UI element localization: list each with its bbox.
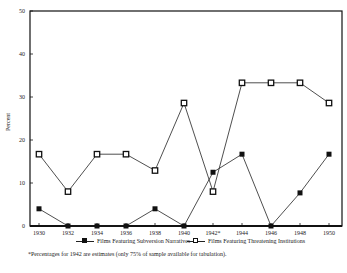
plot-frame bbox=[30, 11, 342, 226]
data-point-filled-square bbox=[327, 152, 332, 157]
legend-item-subversion: Films Featuring Subversion Narratives bbox=[76, 238, 190, 244]
x-tick-label: 1930 bbox=[33, 230, 45, 236]
x-tick-label: 1944 bbox=[236, 230, 248, 236]
data-point-filled-square bbox=[95, 224, 100, 229]
y-tick-label: 40 bbox=[19, 51, 25, 57]
data-point-open-square bbox=[326, 100, 331, 105]
data-point-filled-square bbox=[153, 206, 158, 211]
data-point-open-square bbox=[36, 151, 41, 156]
x-tick-label: 1940 bbox=[178, 230, 190, 236]
data-point-filled-square bbox=[37, 206, 42, 211]
legend-label: Films Featuring Threatening Institutions bbox=[208, 238, 305, 244]
legend-item-threatening: Films Featuring Threatening Institutions bbox=[187, 238, 305, 244]
data-point-open-square bbox=[181, 100, 186, 105]
data-point-filled-square bbox=[182, 224, 187, 229]
legend-label: Films Featuring Subversion Narratives bbox=[97, 238, 190, 244]
open-square-marker-icon bbox=[187, 238, 205, 244]
data-point-open-square bbox=[239, 80, 244, 85]
y-tick-label: 10 bbox=[19, 180, 25, 186]
y-tick-label: 20 bbox=[19, 137, 25, 143]
data-point-filled-square bbox=[211, 170, 216, 175]
data-point-open-square bbox=[210, 189, 215, 194]
x-tick-label: 1946 bbox=[265, 230, 277, 236]
data-point-filled-square bbox=[240, 152, 245, 157]
line-chart: 01020304050 1930193219341936193819401942… bbox=[0, 0, 347, 238]
data-point-open-square bbox=[94, 151, 99, 156]
footnote: *Percentages for 1942 are estimates (onl… bbox=[28, 251, 227, 257]
y-axis-title: Percent bbox=[5, 113, 11, 131]
x-tick-label: 1934 bbox=[91, 230, 103, 236]
x-tick-label: 1936 bbox=[120, 230, 132, 236]
data-point-filled-square bbox=[269, 224, 274, 229]
x-tick-label: 1948 bbox=[294, 230, 306, 236]
data-point-open-square bbox=[268, 80, 273, 85]
series-subversion bbox=[37, 152, 332, 229]
data-point-open-square bbox=[152, 168, 157, 173]
series-group bbox=[36, 80, 331, 228]
y-tick-label: 30 bbox=[19, 94, 25, 100]
data-point-filled-square bbox=[124, 224, 129, 229]
x-tick-label: 1942* bbox=[206, 230, 221, 236]
y-tick-label: 0 bbox=[22, 223, 25, 229]
data-point-open-square bbox=[297, 80, 302, 85]
data-point-open-square bbox=[123, 151, 128, 156]
data-point-open-square bbox=[65, 189, 70, 194]
x-tick-label: 1932 bbox=[62, 230, 74, 236]
x-tick-label: 1938 bbox=[149, 230, 161, 236]
data-point-filled-square bbox=[298, 190, 303, 195]
data-point-filled-square bbox=[66, 224, 71, 229]
y-axis: 01020304050 bbox=[19, 8, 33, 229]
x-tick-label: 1950 bbox=[323, 230, 335, 236]
filled-square-marker-icon bbox=[76, 238, 94, 244]
y-tick-label: 50 bbox=[19, 8, 25, 14]
series-threatening bbox=[36, 80, 331, 194]
